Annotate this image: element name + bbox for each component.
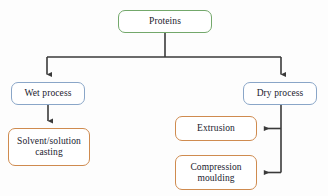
flowchart-diagram: Proteins Wet process Dry process Solvent…	[0, 0, 328, 196]
node-extrusion-label: Extrusion	[194, 123, 238, 134]
node-solvent-casting[interactable]: Solvent/solution casting	[8, 128, 90, 166]
node-dry-process-label: Dry process	[254, 88, 307, 99]
node-dry-process[interactable]: Dry process	[243, 82, 317, 105]
node-compression-moulding[interactable]: Compression moulding	[175, 155, 257, 190]
node-compression-moulding-label: Compression moulding	[187, 162, 244, 183]
node-wet-process-label: Wet process	[21, 88, 74, 99]
node-solvent-casting-label: Solvent/solution casting	[14, 136, 84, 157]
node-extrusion[interactable]: Extrusion	[175, 116, 257, 141]
node-wet-process[interactable]: Wet process	[11, 82, 85, 105]
node-proteins[interactable]: Proteins	[118, 10, 212, 33]
node-proteins-label: Proteins	[146, 16, 184, 27]
